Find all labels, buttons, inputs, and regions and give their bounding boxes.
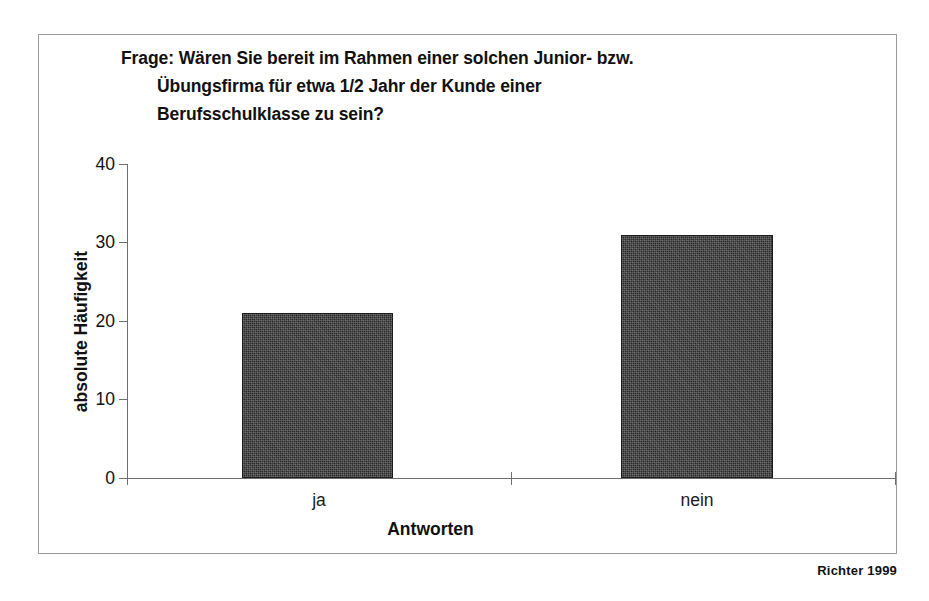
y-tick-mark-10 xyxy=(119,399,128,400)
y-tick-mark-20 xyxy=(119,321,128,322)
x-axis-title: Antworten xyxy=(39,519,898,540)
y-tick-label-30: 30 xyxy=(71,234,115,252)
x-category-label-ja: ja xyxy=(279,490,359,511)
y-tick-label-0: 0 xyxy=(71,470,115,488)
y-tick-label-20: 20 xyxy=(71,313,115,331)
y-tick-label-10: 10 xyxy=(71,391,115,409)
plot-area: absolute Häufigkeit 0 10 20 30 40 ja nei… xyxy=(39,35,898,555)
bar-nein[interactable] xyxy=(621,235,773,478)
bar-ja[interactable] xyxy=(242,313,393,478)
x-tick-mark-right xyxy=(895,472,896,485)
source-credit: Richter 1999 xyxy=(817,563,897,578)
x-tick-mark-middle xyxy=(511,472,512,485)
x-axis-title-text: Antworten xyxy=(387,519,474,540)
figure-frame: Frage: Wären Sie bereit im Rahmen einer … xyxy=(38,34,897,554)
x-category-label-nein: nein xyxy=(657,490,737,511)
y-tick-mark-30 xyxy=(119,242,128,243)
x-tick-mark-left xyxy=(127,472,128,485)
y-tick-mark-40 xyxy=(119,164,128,165)
y-tick-label-40: 40 xyxy=(71,156,115,174)
